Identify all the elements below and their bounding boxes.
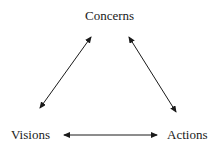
arrows-layer bbox=[0, 0, 220, 152]
edge-concerns-actions-arrow bbox=[129, 37, 176, 112]
edge-concerns-visions-arrow bbox=[40, 37, 91, 108]
